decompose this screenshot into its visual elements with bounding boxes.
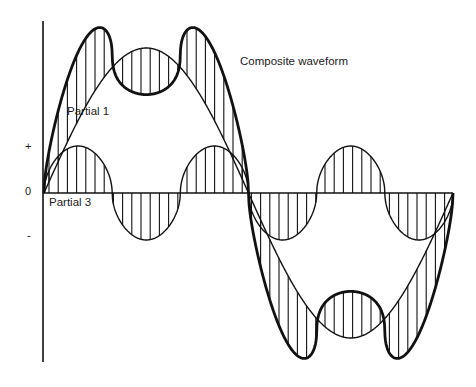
axis-label-minus: - <box>27 230 31 241</box>
partial3-label: Partial 3 <box>49 197 91 209</box>
axis-label-zero: 0 <box>25 186 31 197</box>
partial1-label: Partial 1 <box>67 106 109 118</box>
waveform-diagram <box>0 0 476 387</box>
axis-label-plus: + <box>25 141 31 152</box>
composite-waveform-label: Composite waveform <box>240 56 348 68</box>
